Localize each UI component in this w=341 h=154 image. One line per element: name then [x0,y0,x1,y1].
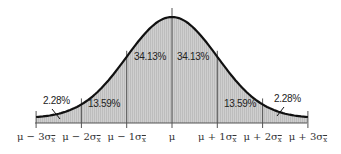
pct-left-tail: 2.28% [43,95,70,106]
tick-label: μ + 1σx [198,131,236,142]
pct-right-mid: 13.59% [224,98,256,109]
tick-label: μ − 3σx [17,131,55,142]
tick-label: μ + 2σx [243,131,281,142]
tick-label: μ − 2σx [62,131,100,142]
x-axis-ticks [36,123,308,128]
pct-left-center: 34.13% [134,51,166,62]
pct-right-center: 34.13% [177,51,209,62]
tick-label: μ − 1σx [107,131,145,142]
pct-left-mid: 13.59% [88,98,120,109]
pct-right-tail: 2.28% [274,93,301,104]
tick-label: μ [169,131,176,142]
sigma-boundary-lines [36,8,308,123]
tick-label: μ + 3σx [289,131,327,142]
